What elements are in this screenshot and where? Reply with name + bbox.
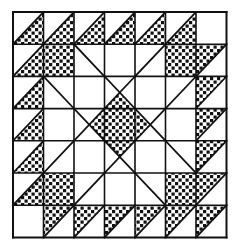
checker-quarter (89, 109, 104, 141)
checker-square (166, 44, 197, 76)
diagonal-line (74, 44, 105, 76)
diagonal-line (44, 76, 75, 108)
diagonal-line (135, 173, 166, 205)
checker-square (44, 44, 75, 76)
diagonal-line (135, 44, 166, 76)
checker-quarter (135, 109, 150, 141)
checker-square (44, 173, 75, 205)
diagonal-line (166, 141, 197, 173)
checker-quarter (105, 93, 136, 109)
diagonal-line (166, 76, 197, 108)
quilt-diagram (0, 0, 239, 249)
checker-square (105, 109, 136, 141)
checker-square (166, 173, 197, 205)
checker-quarter (105, 141, 136, 157)
diagonal-line (44, 141, 75, 173)
checker-fills (13, 12, 227, 237)
diagonal-line (74, 173, 105, 205)
